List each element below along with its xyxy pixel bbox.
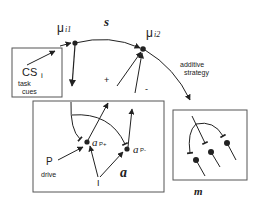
s-region-label: s (103, 14, 109, 29)
mu-i2-subscript: i2 (154, 30, 160, 39)
i-to-ap-plus-arrow (90, 146, 98, 177)
mu-i2-symbol: μ (146, 26, 153, 40)
strategy-label: strategy (184, 69, 209, 77)
diagram-canvas: CS i task cues μ i1 s μ i2 additive stra… (0, 0, 257, 202)
a-region-label: a (120, 165, 127, 180)
ap-minus-node: a P- (124, 143, 146, 155)
cs-to-mu1-arrow (60, 43, 71, 46)
ap-plus-subscript: P+ (99, 141, 107, 147)
task-label: task (18, 80, 31, 87)
cs-to-box-arrow (27, 51, 55, 65)
m-region-label: m (194, 185, 203, 197)
cs-task-cues-box: CS i task cues (12, 48, 62, 97)
m-left-branch (189, 124, 196, 153)
mu-i1-symbol: μ (57, 21, 64, 35)
additive-label: additive (180, 61, 204, 68)
drive-to-ap-plus-arrow (58, 147, 83, 160)
m-neuron-3 (224, 140, 236, 160)
minus-sign: - (145, 84, 148, 94)
ap-minus-up-arrow (128, 109, 132, 147)
m-neuron-1 (193, 157, 205, 176)
m-neuron-2 (208, 149, 220, 167)
ap-minus-subscript: P- (140, 147, 146, 153)
plus-sign: + (104, 75, 109, 85)
mu-i1-node: μ i1 (57, 21, 78, 46)
ap-plus-symbol: a (92, 136, 98, 148)
mu1-down-arrow (72, 45, 75, 86)
mu1-to-mu2-arc (75, 39, 140, 48)
ap-minus-symbol: a (133, 143, 139, 155)
cs-subscript: i (41, 71, 43, 80)
cues-label: cues (22, 88, 37, 95)
ap-plus-node: a P+ (84, 136, 107, 148)
m-right-branch (196, 123, 223, 136)
m-region-box (173, 110, 247, 180)
m-main-branch (192, 116, 205, 143)
mu-i1-subscript: i1 (65, 25, 71, 34)
inhibitory-curve-1 (71, 102, 80, 139)
mu-i2-node: μ i2 (140, 26, 160, 52)
inhibitory-curve-2 (72, 115, 125, 144)
i-label: I (97, 178, 100, 188)
drive-label: drive (41, 171, 56, 178)
cs-label: CS (22, 66, 37, 78)
p-label: P (46, 156, 53, 167)
